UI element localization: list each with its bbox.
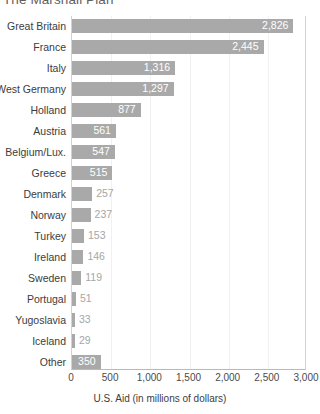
bar-row[interactable]: 350: [72, 352, 307, 373]
bar-row[interactable]: 33: [72, 310, 307, 331]
category-label: Iceland: [32, 331, 66, 352]
bar-value-label: 2,826: [72, 18, 288, 33]
bar-row[interactable]: 29: [72, 331, 307, 352]
bar-value-label: 257: [96, 186, 114, 201]
category-label: West Germany: [0, 79, 66, 100]
bar-value-label: 350: [72, 354, 96, 369]
bar-row[interactable]: 547: [72, 142, 307, 163]
bar-rows: 2,8262,4451,3161,29787756154751525723715…: [72, 16, 305, 369]
x-tick-label: 0: [68, 372, 74, 383]
bar-row[interactable]: 2,445: [72, 37, 307, 58]
bar[interactable]: [72, 271, 81, 285]
x-tick-label: 3,000: [293, 372, 318, 383]
bar-value-label: 51: [80, 291, 92, 306]
category-axis-labels: Great BritainFranceItalyWest GermanyHoll…: [0, 16, 66, 370]
category-label: Sweden: [28, 268, 66, 289]
category-label: Great Britain: [7, 16, 66, 37]
category-label: Other: [40, 352, 66, 373]
bar[interactable]: [72, 334, 75, 348]
category-label: Ireland: [34, 247, 66, 268]
bar-row[interactable]: 1,316: [72, 58, 307, 79]
bar-value-label: 237: [95, 207, 113, 222]
bar-value-label: 547: [72, 144, 110, 159]
x-tick-label: 2,500: [254, 372, 279, 383]
category-label: Turkey: [34, 226, 66, 247]
bar-row[interactable]: 2,826: [72, 16, 307, 37]
bar-value-label: 1,316: [72, 60, 170, 75]
bar-row[interactable]: 119: [72, 268, 307, 289]
bar[interactable]: [72, 313, 75, 327]
bar[interactable]: [72, 229, 84, 243]
bar[interactable]: [72, 187, 92, 201]
bar-row[interactable]: 561: [72, 121, 307, 142]
bar-row[interactable]: 237: [72, 205, 307, 226]
x-tick-label: 1,000: [137, 372, 162, 383]
x-tick-label: 2,000: [215, 372, 240, 383]
bar-row[interactable]: 1,297: [72, 79, 307, 100]
bar[interactable]: [72, 292, 76, 306]
category-label: Portugal: [27, 289, 66, 310]
category-label: Italy: [47, 58, 66, 79]
category-label: Belgium/Lux.: [5, 142, 66, 163]
bar[interactable]: [72, 208, 91, 222]
category-label: Austria: [33, 121, 66, 142]
bar-value-label: 33: [79, 312, 91, 327]
bar-value-label: 877: [72, 102, 136, 117]
bar-row[interactable]: 257: [72, 184, 307, 205]
bar[interactable]: [72, 250, 83, 264]
bar-value-label: 515: [72, 165, 107, 180]
category-label: Denmark: [23, 184, 66, 205]
category-label: Norway: [30, 205, 66, 226]
chart-figure: The Marshall Plan Great BritainFranceIta…: [0, 0, 320, 414]
category-label: Greece: [32, 163, 66, 184]
category-label: Yugoslavia: [15, 310, 66, 331]
category-label: France: [33, 37, 66, 58]
bar-row[interactable]: 877: [72, 100, 307, 121]
bar-value-label: 1,297: [72, 81, 169, 96]
x-tick-label: 1,500: [176, 372, 201, 383]
bar-value-label: 29: [79, 333, 91, 348]
x-axis-title: U.S. Aid (in millions of dollars): [0, 393, 320, 404]
bar-row[interactable]: 146: [72, 247, 307, 268]
chart-title: The Marshall Plan: [3, 0, 114, 7]
category-label: Holland: [30, 100, 66, 121]
bar-value-label: 153: [88, 228, 106, 243]
bar-row[interactable]: 51: [72, 289, 307, 310]
bar-row[interactable]: 515: [72, 163, 307, 184]
x-axis-tick-labels: 05001,0001,5002,0002,5003,000: [0, 372, 320, 388]
bar-value-label: 2,445: [72, 39, 259, 54]
bar-value-label: 146: [87, 249, 105, 264]
plot-area: 2,8262,4451,3161,29787756154751525723715…: [71, 16, 306, 370]
bar-row[interactable]: 153: [72, 226, 307, 247]
bar-value-label: 561: [72, 123, 111, 138]
x-tick-label: 500: [102, 372, 119, 383]
bar-value-label: 119: [85, 270, 102, 285]
